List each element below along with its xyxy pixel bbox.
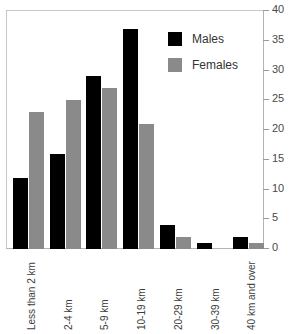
y-axis-tick-label: 40 [272,4,284,15]
bar-group [86,10,119,249]
y-axis-tick-label: 10 [272,183,284,194]
y-axis-tick-label: 25 [272,93,284,104]
bar-group [13,10,46,249]
legend-swatch-females-icon [168,58,182,72]
bar-males [233,237,248,249]
x-axis-label: 2-4 km [64,299,74,330]
chart-legend: Males Females [168,32,268,84]
x-axis-label: 10-19 km [137,288,147,330]
y-axis-tick-label: 20 [272,123,284,134]
y-axis-tick-label: 15 [272,153,284,164]
x-axis-label: 30-39 km [211,288,221,330]
legend-swatch-males-icon [168,32,182,46]
bar-males [50,154,65,249]
y-axis-tick-label: 0 [272,242,278,253]
x-axis-category-labels: Less than 2 km2-4 km5-9 km10-19 km20-29 … [6,252,263,334]
bar-males [160,225,175,249]
bar-males [123,29,138,249]
bar-group [123,10,156,249]
bar-females [66,100,81,249]
bar-females [29,112,44,249]
x-axis-label: 5-9 km [100,299,110,330]
bar-females [249,243,264,249]
x-axis-label: 40 km and over [247,261,257,330]
bar-males [197,243,212,249]
bar-females [176,237,191,249]
legend-label-females: Females [192,59,238,71]
legend-item-females: Females [168,58,268,72]
bar-chart: 0510152025303540 Males Females Less than… [0,0,298,334]
y-axis-tick-label: 35 [272,34,284,45]
legend-item-males: Males [168,32,268,46]
bar-group [50,10,83,249]
y-axis-tick-label: 30 [272,64,284,75]
bar-males [13,178,28,249]
y-axis-tick-label: 5 [272,212,278,223]
bar-females [139,124,154,249]
x-axis-label: Less than 2 km [27,262,37,330]
bar-males [86,76,101,249]
bar-females [102,88,117,249]
x-axis-label: 20-29 km [174,288,184,330]
legend-label-males: Males [192,33,224,45]
